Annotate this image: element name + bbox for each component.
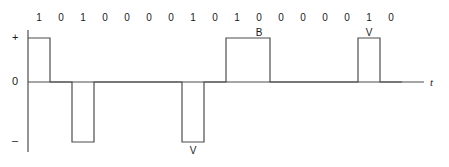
bit-label: 0 (274, 12, 288, 24)
bit-label: 0 (120, 12, 134, 24)
bit-label: 0 (98, 12, 112, 24)
bit-label: 1 (362, 12, 376, 24)
waveform-annotation: V (185, 145, 201, 156)
bit-label: 0 (252, 12, 266, 24)
bit-label: 0 (164, 12, 178, 24)
bit-label: 0 (384, 12, 398, 24)
signal-waveform (28, 38, 402, 142)
bit-label: 0 (208, 12, 222, 24)
waveform-annotation: B (251, 27, 267, 38)
y-axis-zero-label: 0 (12, 76, 18, 87)
bit-label: 0 (318, 12, 332, 24)
y-axis-plus-label: + (12, 32, 18, 43)
bit-label: 1 (32, 12, 46, 24)
bit-label: 1 (186, 12, 200, 24)
waveform-figure: 10100001010000010 VBV + 0 – t (0, 0, 449, 167)
y-axis-minus-label: – (12, 135, 18, 146)
x-axis-time-label: t (430, 76, 433, 88)
waveform-annotation: V (361, 27, 377, 38)
bit-label: 0 (142, 12, 156, 24)
bit-label: 0 (340, 12, 354, 24)
waveform-svg (0, 0, 449, 167)
bit-label: 1 (76, 12, 90, 24)
bit-label: 0 (54, 12, 68, 24)
bit-label: 0 (296, 12, 310, 24)
bit-label: 1 (230, 12, 244, 24)
